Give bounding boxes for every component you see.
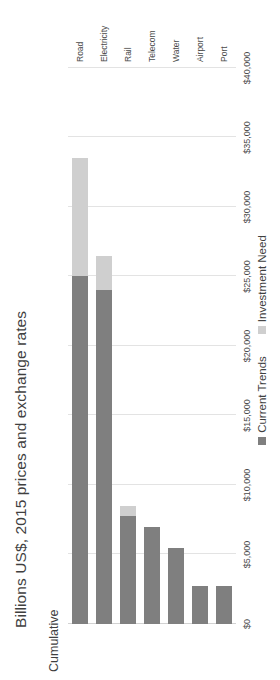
bar-row[interactable] xyxy=(192,68,208,624)
bar-row[interactable] xyxy=(144,68,160,624)
category-label: Rail xyxy=(123,47,133,62)
bar-segment[interactable] xyxy=(144,527,160,624)
bar-segment[interactable] xyxy=(72,277,88,625)
legend-label: Current Trends xyxy=(256,356,268,433)
bar-row[interactable] xyxy=(120,68,136,624)
category-label: Road xyxy=(75,42,85,62)
axis-tick-label: $0 xyxy=(242,619,252,629)
bar-segment[interactable] xyxy=(168,548,184,624)
legend-swatch xyxy=(258,437,266,445)
axis-tick-label: $40,000 xyxy=(242,52,252,85)
bar-segment[interactable] xyxy=(120,506,136,516)
chart-legend: Current TrendsInvestment Need xyxy=(252,0,270,680)
legend-label: Investment Need xyxy=(256,235,268,322)
bar-row[interactable] xyxy=(216,68,232,624)
category-label: Electricity xyxy=(99,26,109,62)
bar-segment[interactable] xyxy=(96,256,112,291)
bar-row[interactable] xyxy=(168,68,184,624)
bar-segment[interactable] xyxy=(72,158,88,276)
axis-tick-label: $5,000 xyxy=(242,541,252,569)
bar-row[interactable] xyxy=(96,68,112,624)
axis-tick-label: $10,000 xyxy=(242,469,252,502)
category-label: Airport xyxy=(195,37,205,62)
axis-tick-label: $35,000 xyxy=(242,121,252,154)
bar-segment[interactable] xyxy=(192,586,208,624)
rotated-figure-wrapper: Billions US$, 2015 prices and exchange r… xyxy=(0,0,280,680)
axis-tick-label: $30,000 xyxy=(242,191,252,224)
legend-swatch xyxy=(258,326,266,334)
legend-item[interactable]: Investment Need xyxy=(256,235,268,334)
axis-tick-label: $25,000 xyxy=(242,260,252,293)
bar-segment[interactable] xyxy=(216,586,232,624)
category-label: Water xyxy=(171,40,181,62)
bar-segment[interactable] xyxy=(96,290,112,624)
category-label: Port xyxy=(219,46,229,62)
category-label: Telecom xyxy=(147,30,157,62)
plot-area xyxy=(68,68,236,624)
chart-title: Billions US$, 2015 prices and exchange r… xyxy=(12,311,30,628)
cumulative-axis-label: Cumulative xyxy=(47,609,61,672)
axis-tick-label: $15,000 xyxy=(242,399,252,432)
axis-tick-label: $20,000 xyxy=(242,330,252,363)
legend-item[interactable]: Current Trends xyxy=(256,356,268,445)
bar-row[interactable] xyxy=(72,68,88,624)
bar-segment[interactable] xyxy=(120,516,136,624)
chart-figure: Billions US$, 2015 prices and exchange r… xyxy=(0,0,280,680)
